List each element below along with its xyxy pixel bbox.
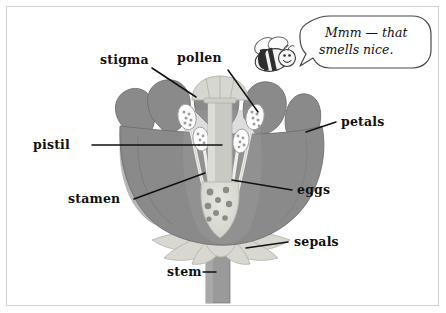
label-petals: petals xyxy=(341,116,385,129)
label-pollen: pollen xyxy=(177,52,222,65)
label-stigma: stigma xyxy=(100,54,149,67)
label-eggs: eggs xyxy=(297,184,330,197)
bee-head xyxy=(279,50,296,67)
label-pistil: pistil xyxy=(33,139,70,152)
label-stem: stem xyxy=(167,266,202,279)
bee-illustration xyxy=(252,34,296,74)
diagram-canvas: stigma pollen petals pistil stamen eggs … xyxy=(0,0,446,313)
label-stamen: stamen xyxy=(68,193,120,206)
speech-bubble-line-2: smells nice. xyxy=(319,43,393,58)
label-sepals: sepals xyxy=(294,236,339,249)
stigma-shape xyxy=(192,76,248,103)
speech-bubble-line-1: Mmm — that xyxy=(325,26,408,41)
